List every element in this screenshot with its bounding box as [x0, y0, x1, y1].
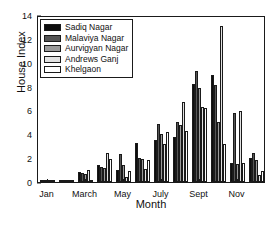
bar-group [230, 17, 245, 182]
bar-group [192, 17, 207, 182]
legend-label: Aurvigyan Nagar [65, 44, 128, 53]
legend-label: Sadiq Nagar [65, 23, 112, 32]
legend-swatch [44, 66, 61, 73]
legend-swatch [44, 56, 61, 63]
legend-swatch [44, 35, 61, 42]
legend-swatch [44, 45, 61, 52]
bar [147, 160, 150, 182]
legend-item: Andrews Ganj [44, 54, 128, 64]
y-tick-label: 0 [27, 179, 32, 188]
x-tick-mark [123, 179, 124, 183]
legend-item: Malaviya Nagar [44, 33, 128, 43]
x-tick-mark [161, 179, 162, 183]
y-tick-label: 2 [27, 155, 32, 164]
chart-legend: Sadiq NagarMalaviya NagarAurvigyan Nagar… [40, 19, 133, 78]
bar [52, 180, 55, 182]
legend-label: Malaviya Nagar [65, 34, 124, 43]
y-tick-label: 14 [22, 12, 32, 21]
y-tick-label: 8 [27, 83, 32, 92]
legend-item: Aurvigyan Nagar [44, 44, 128, 54]
y-tick-label: 6 [27, 107, 32, 116]
bar [242, 163, 245, 182]
bar [223, 144, 226, 182]
x-tick-mark [47, 179, 48, 183]
legend-swatch [44, 24, 61, 31]
bar [185, 131, 188, 182]
bar [90, 180, 93, 182]
y-tick-label: 10 [22, 59, 32, 68]
y-tick-label: 4 [27, 131, 32, 140]
x-tick-mark [237, 179, 238, 183]
bar-group [211, 17, 226, 182]
y-tick-label: 12 [22, 35, 32, 44]
y-axis-ticks: 02468101214 [0, 16, 37, 183]
bar-group [135, 17, 150, 182]
bar [166, 132, 169, 182]
bar-chart-figure: House Index 02468101214 Sadiq NagarMalav… [0, 0, 279, 237]
bar [261, 171, 264, 182]
bar [109, 159, 112, 182]
bar [71, 180, 74, 182]
legend-label: Andrews Ganj [65, 55, 118, 64]
bar [204, 108, 207, 182]
x-tick-mark [85, 179, 86, 183]
bar-group [173, 17, 188, 182]
bar-group [154, 17, 169, 182]
bar-group [249, 17, 264, 182]
bar [128, 171, 131, 182]
legend-item: Khelgaon [44, 65, 128, 75]
legend-item: Sadiq Nagar [44, 23, 128, 33]
legend-label: Khelgaon [65, 65, 101, 74]
x-axis-label: Month [37, 198, 265, 210]
x-tick-mark [199, 179, 200, 183]
